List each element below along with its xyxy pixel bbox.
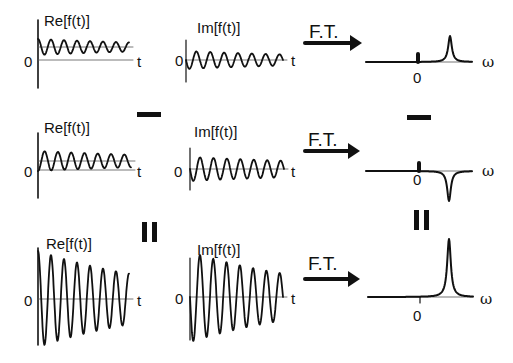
row2-ft-label: F.T.: [308, 130, 338, 149]
equals-operator-icon: [152, 222, 157, 242]
minus-operator-icon: [137, 112, 161, 117]
row2-re-label: Re[f(t)]: [44, 120, 90, 135]
row1-re-label: Re[f(t)]: [44, 13, 90, 28]
row1-ft-zero-label: 0: [413, 70, 421, 85]
row2-ft-arrow-head-icon: [348, 143, 360, 159]
row3-im-t-label: t: [291, 291, 295, 306]
row1-im-label: Im[f(t)]: [197, 20, 240, 35]
row3-im-signal-curve: [190, 255, 283, 341]
row3-spectrum-peak-curve: [368, 239, 473, 297]
row1-im-signal-curve: [186, 52, 283, 69]
row2-im-signal-curve: [190, 158, 284, 181]
row1-ft-arrow-head-icon: [350, 35, 362, 51]
row3-ft-zero-label: 0: [413, 308, 421, 323]
row2-im-t-label: t: [291, 164, 295, 179]
row1-omega-label: ω: [482, 55, 494, 70]
row2-im-zero-label: 0: [174, 164, 182, 179]
row1-im-t-label: t: [291, 53, 295, 68]
fourier-transform-diagram: [0, 0, 513, 363]
row2-re-t-label: t: [137, 164, 141, 179]
row1-re-t-label: t: [137, 54, 141, 69]
row3-ft-label: F.T.: [308, 254, 338, 273]
row1-re-zero-label: 0: [24, 54, 32, 69]
row1-ft-label: F.T.: [309, 22, 339, 41]
row3-re-t-label: t: [137, 293, 141, 308]
equals-operator-icon: [142, 222, 147, 242]
row1-im-zero-label: 0: [175, 53, 183, 68]
row2-omega-label: ω: [482, 164, 494, 179]
row3-re-label: Re[f(t)]: [46, 236, 92, 251]
equals-operator-icon: [414, 210, 419, 230]
row3-ft-arrow-head-icon: [348, 271, 360, 287]
row3-im-zero-label: 0: [175, 291, 183, 306]
equals-operator-icon: [424, 210, 429, 230]
row3-im-label: Im[f(t)]: [197, 242, 240, 257]
row3-re-signal-curve: [38, 251, 129, 345]
row2-re-zero-label: 0: [24, 164, 32, 179]
row2-im-label: Im[f(t)]: [194, 124, 237, 139]
row3-re-zero-label: 0: [24, 293, 32, 308]
row3-omega-label: ω: [480, 292, 492, 307]
minus-operator-icon: [407, 115, 431, 120]
row2-ft-zero-label: 0: [413, 172, 421, 187]
